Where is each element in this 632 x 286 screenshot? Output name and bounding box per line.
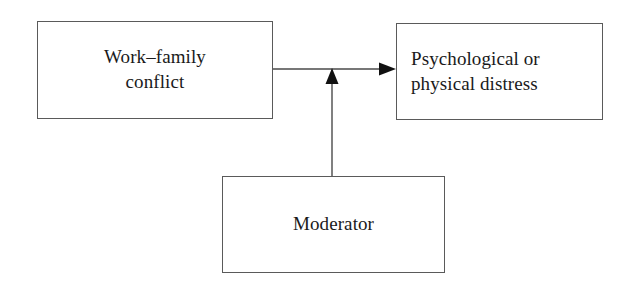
edge-predictor-to-outcome-arrowhead	[379, 63, 396, 76]
node-work-family-conflict-label: Work–family conflict	[104, 45, 206, 94]
diagram-canvas: Work–family conflict Psychological or ph…	[0, 0, 632, 286]
node-psychological-or-physical-distress-label: Psychological or physical distress	[397, 47, 602, 96]
node-psychological-or-physical-distress[interactable]: Psychological or physical distress	[396, 23, 603, 120]
node-work-family-conflict[interactable]: Work–family conflict	[37, 21, 273, 119]
node-moderator[interactable]: Moderator	[222, 176, 445, 273]
edge-moderator-to-path-arrowhead	[326, 68, 339, 84]
node-moderator-label: Moderator	[293, 212, 374, 237]
